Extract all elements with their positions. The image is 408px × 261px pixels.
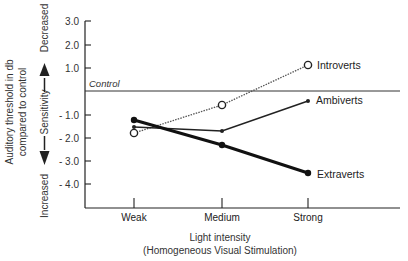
arrow-up-icon [40, 63, 50, 92]
series-extraverts: Extraverts [131, 117, 364, 180]
y-tick-label: 3.0 [65, 16, 79, 27]
x-category-weak: Weak [121, 212, 147, 223]
y-tick-labels: 3.0 2.0 1.0 - 1.0 - 2.0 - 3.0 - 4.0 [59, 16, 79, 190]
data-point [131, 117, 137, 123]
data-point [132, 125, 136, 129]
data-point [130, 129, 137, 136]
x-axis-title: Light intensity [189, 232, 250, 243]
data-point [220, 129, 224, 133]
y-tick-label: 2.0 [65, 40, 79, 51]
data-point [304, 61, 311, 68]
y-tick-label: - 4.0 [59, 179, 79, 190]
series-label-ambiverts: Ambiverts [316, 94, 363, 106]
x-category-medium: Medium [204, 212, 240, 223]
x-axis-subtitle: (Homogeneous Visual Stimulation) [143, 245, 297, 256]
arrow-down-icon [40, 136, 50, 165]
series-ambiverts: Ambiverts [132, 94, 363, 133]
increased-label: Increased [39, 174, 50, 218]
data-point [219, 142, 225, 148]
y-tick-label: - 3.0 [59, 156, 79, 167]
data-point [306, 99, 310, 103]
y-tick-label: 1.0 [65, 63, 79, 74]
y-tick-label: - 1.0 [59, 110, 79, 121]
control-label: Control [89, 78, 121, 89]
y-axis-title: Auditory threshold in db [4, 59, 15, 165]
series-label-introverts: Introverts [317, 59, 361, 71]
y-axis-subtitle: compared to control [17, 68, 28, 156]
y-ticks [85, 21, 91, 184]
data-point [305, 170, 311, 176]
series-label-extraverts: Extraverts [317, 168, 364, 180]
sensitivity-label: Sensitivity [39, 89, 50, 134]
y-tick-label: - 2.0 [59, 133, 79, 144]
decreased-label: Decreased [39, 4, 50, 52]
chart: 3.0 2.0 1.0 - 1.0 - 2.0 - 3.0 - 4.0 Weak… [0, 0, 408, 261]
data-point [218, 101, 225, 108]
x-ticks [134, 198, 308, 208]
x-category-strong: Strong [293, 212, 322, 223]
